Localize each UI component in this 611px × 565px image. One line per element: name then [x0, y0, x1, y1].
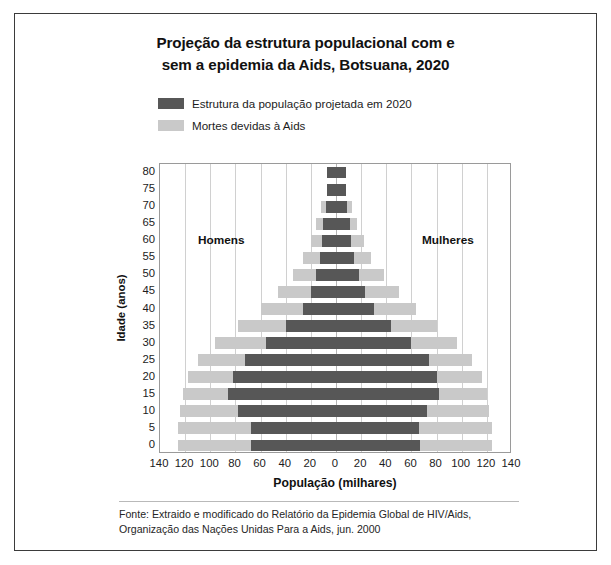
- bar-row-age-25: [160, 354, 510, 366]
- chart-legend: Estrutura da população projetada em 2020…: [158, 94, 498, 138]
- bar-projected-female-60: [336, 235, 351, 247]
- bar-row-age-45: [160, 286, 510, 298]
- y-tick-0: 0: [121, 439, 155, 450]
- source-note-line-2: Organização das Nações Unidas Para a Aid…: [119, 522, 539, 537]
- bar-projected-male-0: [251, 440, 336, 452]
- legend-label-aids-deaths: Mortes devidas à Aids: [192, 119, 305, 132]
- y-tick-25: 25: [121, 354, 155, 365]
- y-tick-80: 80: [121, 166, 155, 177]
- x-axis-tick-labels: 14012010080604020020406080100120140: [159, 457, 511, 473]
- center-axis-line: [160, 164, 162, 452]
- x-tick-9: 40: [379, 457, 392, 469]
- legend-swatch-light-icon: [158, 120, 184, 131]
- bar-row-age-80: [160, 167, 510, 179]
- bar-projected-male-60: [322, 235, 336, 247]
- bar-projected-female-30: [336, 337, 411, 349]
- x-tick-6: 20: [304, 457, 317, 469]
- x-tick-0: 140: [150, 457, 169, 469]
- x-axis-title: População (milhares): [159, 476, 511, 490]
- bar-row-age-50: [160, 269, 510, 281]
- bar-row-age-5: [160, 422, 510, 434]
- bar-projected-male-45: [311, 286, 336, 298]
- bar-projected-male-5: [251, 422, 336, 434]
- bar-projected-male-50: [316, 269, 336, 281]
- bar-projected-female-20: [336, 371, 437, 383]
- y-tick-55: 55: [121, 251, 155, 262]
- bar-projected-female-80: [336, 167, 346, 179]
- x-tick-3: 80: [228, 457, 241, 469]
- bar-projected-male-25: [245, 354, 336, 366]
- bar-projected-female-70: [336, 201, 347, 213]
- bar-projected-male-20: [233, 371, 336, 383]
- y-tick-10: 10: [121, 405, 155, 416]
- y-tick-35: 35: [121, 320, 155, 331]
- bar-projected-male-65: [323, 218, 336, 230]
- y-tick-15: 15: [121, 388, 155, 399]
- bar-row-age-70: [160, 201, 510, 213]
- figure-frame: Projeção da estrutura populacional com e…: [14, 13, 597, 551]
- y-axis-title: Idade (anos): [101, 163, 117, 453]
- bar-projected-male-75: [327, 184, 336, 196]
- bar-row-age-40: [160, 303, 510, 315]
- bar-row-age-65: [160, 218, 510, 230]
- bar-projected-female-15: [336, 388, 439, 400]
- x-tick-14: 140: [502, 457, 521, 469]
- bar-row-age-15: [160, 388, 510, 400]
- x-tick-8: 20: [354, 457, 367, 469]
- bar-projected-female-55: [336, 252, 354, 264]
- bar-projected-male-35: [286, 320, 336, 332]
- bar-projected-female-45: [336, 286, 365, 298]
- bar-row-age-30: [160, 337, 510, 349]
- x-tick-13: 120: [476, 457, 495, 469]
- legend-swatch-dark-icon: [158, 98, 184, 109]
- y-axis-tick-labels: 80757065605550454035302520151050: [119, 163, 155, 453]
- bar-projected-male-55: [320, 252, 336, 264]
- bar-projected-male-10: [238, 405, 336, 417]
- x-tick-4: 60: [253, 457, 266, 469]
- bar-projected-male-30: [266, 337, 336, 349]
- x-tick-10: 60: [404, 457, 417, 469]
- bar-projected-female-10: [336, 405, 427, 417]
- bar-projected-male-15: [228, 388, 336, 400]
- source-note-line-1: Fonte: Extraido e modificado do Relatóri…: [119, 507, 539, 522]
- bar-projected-male-80: [327, 167, 336, 179]
- source-divider: [119, 501, 519, 502]
- chart-title: Projeção da estrutura populacional com e…: [15, 32, 596, 75]
- bar-row-age-20: [160, 371, 510, 383]
- bar-projected-female-0: [336, 440, 420, 452]
- bar-projected-male-40: [303, 303, 336, 315]
- y-tick-20: 20: [121, 371, 155, 382]
- y-tick-60: 60: [121, 234, 155, 245]
- x-tick-12: 100: [451, 457, 470, 469]
- legend-item-projected-population: Estrutura da população projetada em 2020: [158, 94, 498, 113]
- chart-title-line-2: sem a epidemia da Aids, Botsuana, 2020: [63, 54, 548, 76]
- bar-row-age-75: [160, 184, 510, 196]
- y-tick-65: 65: [121, 217, 155, 228]
- bar-row-age-35: [160, 320, 510, 332]
- x-tick-2: 100: [200, 457, 219, 469]
- x-tick-7: 0: [332, 457, 338, 469]
- y-tick-5: 5: [121, 422, 155, 433]
- bar-projected-male-70: [326, 201, 336, 213]
- bar-row-age-10: [160, 405, 510, 417]
- y-tick-40: 40: [121, 303, 155, 314]
- bar-projected-female-40: [336, 303, 374, 315]
- bar-row-age-0: [160, 440, 510, 452]
- bar-projected-female-75: [336, 184, 346, 196]
- side-label-mulheres: Mulheres: [422, 233, 474, 247]
- y-tick-70: 70: [121, 200, 155, 211]
- chart-title-line-1: Projeção da estrutura populacional com e: [63, 32, 548, 54]
- legend-label-projected-population: Estrutura da população projetada em 2020: [192, 97, 412, 110]
- y-tick-50: 50: [121, 268, 155, 279]
- legend-item-aids-deaths: Mortes devidas à Aids: [158, 116, 498, 135]
- bar-projected-female-50: [336, 269, 359, 281]
- side-label-homens: Homens: [198, 233, 245, 247]
- population-pyramid-plot: Homens Mulheres: [159, 163, 511, 453]
- x-tick-5: 40: [278, 457, 291, 469]
- x-tick-11: 80: [429, 457, 442, 469]
- y-tick-75: 75: [121, 183, 155, 194]
- bar-projected-female-25: [336, 354, 429, 366]
- y-tick-45: 45: [121, 285, 155, 296]
- bar-projected-female-35: [336, 320, 391, 332]
- source-note: Fonte: Extraido e modificado do Relatóri…: [119, 507, 539, 538]
